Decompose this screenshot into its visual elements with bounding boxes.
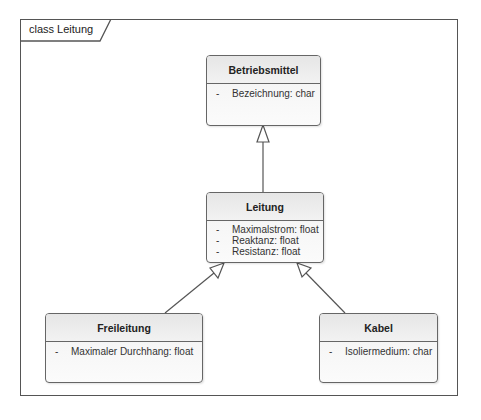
attribute-list: - Maximalstrom: float - Reaktanz: float … xyxy=(207,221,323,257)
visibility-marker: - xyxy=(216,235,232,246)
visibility-marker: - xyxy=(329,346,345,357)
class-name: Freileitung xyxy=(46,314,202,342)
visibility-marker: - xyxy=(55,346,71,357)
attribute-text: Resistanz: float xyxy=(232,246,300,257)
visibility-marker: - xyxy=(216,224,232,235)
class-kabel[interactable]: Kabel - Isoliermedium: char xyxy=(319,313,438,383)
visibility-marker: - xyxy=(216,246,232,257)
hollow-triangle-arrow-icon xyxy=(257,125,269,142)
class-freileitung[interactable]: Freileitung - Maximaler Durchhang: float xyxy=(45,313,203,383)
generalization-freileitung-leitung[interactable] xyxy=(165,263,224,313)
class-name: Leitung xyxy=(207,193,323,221)
attribute-text: Maximaler Durchhang: float xyxy=(71,346,193,357)
class-name: Kabel xyxy=(320,314,437,342)
attribute[interactable]: - Resistanz: float xyxy=(216,246,323,257)
class-betriebsmittel[interactable]: Betriebsmittel - Bezeichnung: char xyxy=(206,55,321,126)
hollow-triangle-arrow-icon xyxy=(210,263,224,278)
attribute-list: - Bezeichnung: char xyxy=(207,84,320,99)
attribute-text: Bezeichnung: char xyxy=(232,88,315,99)
attribute-text: Maximalstrom: float xyxy=(232,224,319,235)
attribute-list: - Maximaler Durchhang: float xyxy=(46,342,202,357)
visibility-marker: - xyxy=(216,88,232,99)
attribute-text: Isoliermedium: char xyxy=(345,346,432,357)
class-leitung[interactable]: Leitung - Maximalstrom: float - Reaktanz… xyxy=(206,192,324,263)
attribute[interactable]: - Maximalstrom: float xyxy=(216,224,323,235)
class-name: Betriebsmittel xyxy=(207,56,320,84)
attribute[interactable]: - Bezeichnung: char xyxy=(216,88,320,99)
attribute-text: Reaktanz: float xyxy=(232,235,299,246)
attribute-list: - Isoliermedium: char xyxy=(320,342,437,357)
attribute[interactable]: - Reaktanz: float xyxy=(216,235,323,246)
attribute[interactable]: - Maximaler Durchhang: float xyxy=(55,346,202,357)
hollow-triangle-arrow-icon xyxy=(297,263,311,277)
generalization-leitung-betriebsmittel[interactable] xyxy=(257,125,269,192)
attribute[interactable]: - Isoliermedium: char xyxy=(329,346,437,357)
generalization-kabel-leitung[interactable] xyxy=(297,263,345,313)
